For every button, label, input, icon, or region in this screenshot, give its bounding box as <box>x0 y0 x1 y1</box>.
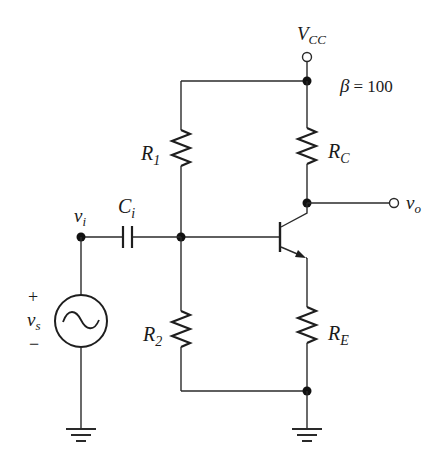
beta-label: β= 100 <box>339 75 393 96</box>
vs-label: vs <box>27 309 41 333</box>
r2-label: R2 <box>142 323 162 349</box>
ac-source: + vs − <box>27 237 107 429</box>
output-terminal: vo <box>303 192 422 216</box>
circuit-diagram: VCC β= 100 R1 RC vo <box>0 0 445 476</box>
vo-label: vo <box>406 192 421 216</box>
re-label: RE <box>327 322 349 348</box>
vcc-terminal: VCC <box>297 23 326 81</box>
r1-label: R1 <box>140 142 160 168</box>
ci-label: Ci <box>118 195 135 221</box>
vcc-terminal-circle <box>303 53 312 62</box>
emitter-arrow <box>295 250 306 258</box>
vi-label: vi <box>74 205 86 229</box>
collector-lead <box>281 203 307 227</box>
ground-left <box>66 429 96 441</box>
sine-icon <box>63 312 99 328</box>
resistor-r2: R2 <box>142 237 307 391</box>
minus-sign: − <box>29 334 39 354</box>
resistor-r1: R1 <box>140 81 190 237</box>
rc-label: RC <box>327 140 350 166</box>
vcc-label: VCC <box>297 23 326 47</box>
npn-transistor <box>181 203 307 258</box>
plus-sign: + <box>28 287 38 307</box>
capacitor-ci: Ci <box>81 195 181 248</box>
resistor-re: RE <box>298 258 349 391</box>
resistor-rc: RC <box>298 81 350 203</box>
ground-right <box>292 387 322 442</box>
